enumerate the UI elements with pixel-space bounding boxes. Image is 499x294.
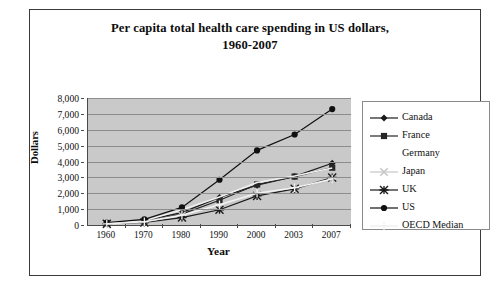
legend-item-oecd-median[interactable]: OECD Median — [363, 215, 489, 233]
x-axis-tick-mark — [162, 224, 163, 228]
x-axis-label: Year — [87, 245, 350, 257]
legend-item-uk[interactable]: UK — [363, 179, 489, 197]
x-axis-tick-mark — [237, 224, 238, 228]
legend-marker-icon — [369, 110, 399, 122]
chart-title-line1: Per capita total health care spending in… — [111, 21, 389, 35]
y-axis-tick-label: 4,000 — [31, 156, 79, 167]
gridline — [88, 146, 351, 147]
legend-marker-icon — [369, 146, 399, 158]
x-axis-tick-mark — [312, 224, 313, 228]
legend-marker-icon — [369, 164, 399, 176]
chart-legend: CanadaFranceGermanyJapanUKUSOECD Median — [362, 101, 490, 230]
legend-item-label: Japan — [402, 165, 425, 176]
chart-title-line2: 1960-2007 — [40, 37, 460, 54]
legend-marker-icon — [369, 128, 399, 140]
y-axis-tick-mark — [81, 114, 84, 115]
legend-item-label: OECD Median — [402, 219, 463, 230]
x-axis-tick-label: 1990 — [209, 230, 228, 240]
gridline — [88, 209, 351, 210]
y-axis-tick-mark — [81, 225, 84, 226]
plot-area — [87, 98, 351, 226]
x-axis-ticks: 1960197019801990200020032007 — [87, 228, 350, 242]
legend-item-label: Canada — [402, 111, 433, 122]
x-axis-tick-label: 1980 — [172, 230, 191, 240]
gridline — [88, 114, 351, 115]
gridline — [88, 162, 351, 163]
x-axis-tick-label: 2003 — [284, 230, 303, 240]
gridline — [88, 193, 351, 194]
x-axis-tick-label: 2000 — [247, 230, 266, 240]
y-axis-tick-label: 0 — [31, 220, 79, 231]
legend-item-canada[interactable]: Canada — [363, 107, 489, 125]
x-axis-tick-mark — [350, 224, 351, 228]
legend-marker-icon — [369, 182, 399, 194]
y-axis-tick-mark — [81, 130, 84, 131]
y-axis-tick-mark — [81, 146, 84, 147]
chart-title: Per capita total health care spending in… — [40, 20, 460, 54]
y-axis-tick-mark — [81, 98, 84, 99]
legend-item-label: Germany — [402, 147, 440, 158]
y-axis-ticks: 8,0007,0006,0005,0004,0003,0002,0001,000… — [31, 98, 83, 225]
y-axis-tick-label: 7,000 — [31, 108, 79, 119]
y-axis-tick-label: 6,000 — [31, 124, 79, 135]
legend-marker-icon — [369, 200, 399, 212]
legend-item-label: UK — [402, 183, 417, 194]
legend-item-japan[interactable]: Japan — [363, 161, 489, 179]
legend-marker-icon — [369, 218, 399, 230]
x-axis-tick-mark — [200, 224, 201, 228]
y-axis-tick-mark — [81, 209, 84, 210]
x-axis-tick-label: 1960 — [96, 230, 115, 240]
x-axis-tick-label: 1970 — [134, 230, 153, 240]
gridline — [88, 177, 351, 178]
y-axis-tick-mark — [81, 177, 84, 178]
y-axis-tick-label: 5,000 — [31, 140, 79, 151]
y-axis-tick-label: 8,000 — [31, 93, 79, 104]
y-axis-tick-label: 2,000 — [31, 188, 79, 199]
legend-item-france[interactable]: France — [363, 125, 489, 143]
legend-item-label: US — [402, 201, 415, 212]
gridline — [88, 98, 351, 99]
y-axis-tick-mark — [81, 193, 84, 194]
legend-item-germany[interactable]: Germany — [363, 143, 489, 161]
x-axis-tick-mark — [275, 224, 276, 228]
y-axis-tick-label: 1,000 — [31, 204, 79, 215]
y-axis-tick-mark — [81, 162, 84, 163]
x-axis-tick-label: 2007 — [322, 230, 341, 240]
x-axis-tick-mark — [125, 224, 126, 228]
chart-figure: Per capita total health care spending in… — [0, 0, 499, 294]
legend-item-label: France — [402, 129, 430, 140]
legend-item-us[interactable]: US — [363, 197, 489, 215]
y-axis-tick-label: 3,000 — [31, 172, 79, 183]
gridline — [88, 130, 351, 131]
